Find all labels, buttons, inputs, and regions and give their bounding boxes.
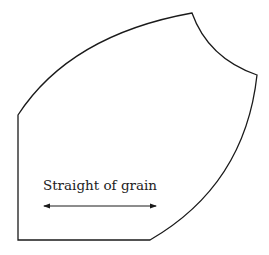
grainline-arrow bbox=[43, 204, 157, 209]
grainline-label: Straight of grain bbox=[43, 177, 157, 193]
pattern-diagram: Straight of grain bbox=[0, 0, 269, 255]
arrow-head-left-icon bbox=[43, 204, 50, 209]
arrow-head-right-icon bbox=[150, 204, 157, 209]
